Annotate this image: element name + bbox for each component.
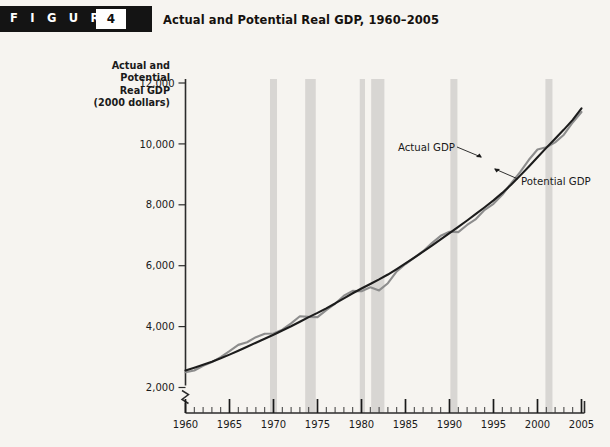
recession-band [360, 79, 365, 413]
recession-band [270, 79, 277, 413]
y-axis-title-line: Actual and [112, 60, 170, 71]
figure-page: F I G U R E 4 Actual and Potential Real … [0, 0, 610, 447]
recession-bands [270, 79, 552, 413]
y-tick-label: 6,000 [146, 260, 175, 271]
figure-number: 4 [96, 12, 126, 26]
y-tick-labels: 2,0004,0006,0008,00010,00012,000 [140, 78, 175, 394]
figure-header: F I G U R E 4 Actual and Potential Real … [0, 6, 610, 32]
chart-container: 2,0004,0006,0008,00010,00012,000 1960196… [0, 32, 610, 447]
gdp-line-chart: 2,0004,0006,0008,00010,00012,000 1960196… [0, 32, 610, 447]
y-axis-title-line: Real GDP [120, 85, 170, 96]
x-tick-label: 2000 [525, 419, 550, 430]
x-tick-label: 1985 [393, 419, 418, 430]
y-tick-label: 8,000 [146, 199, 175, 210]
y-axis-title: Actual andPotentialReal GDP(2000 dollars… [93, 60, 170, 108]
figure-number-box: 4 [96, 9, 126, 29]
x-tick-label: 1960 [173, 419, 198, 430]
x-tick-label: 1990 [437, 419, 462, 430]
y-tick-label: 2,000 [146, 382, 175, 393]
x-tick-label: 1995 [481, 419, 506, 430]
x-tick-label: 1980 [349, 419, 374, 430]
y-axis-title-line: Potential [120, 72, 170, 83]
figure-title: Actual and Potential Real GDP, 1960–2005 [163, 13, 439, 27]
recession-band [371, 79, 384, 413]
series-annotations: Actual GDPPotential GDP [398, 142, 591, 187]
recession-band [545, 79, 552, 413]
y-tick-label: 10,000 [140, 139, 175, 150]
x-tick-label: 2005 [569, 419, 594, 430]
recession-band [305, 79, 316, 413]
annotation-leader-actual [457, 147, 481, 157]
x-tick-label: 1975 [305, 419, 330, 430]
x-tick-label: 1970 [261, 419, 286, 430]
recession-band [450, 79, 457, 413]
annotation-actual-gdp: Actual GDP [398, 142, 455, 153]
annotation-potential-gdp: Potential GDP [521, 176, 591, 187]
y-axis-title-line: (2000 dollars) [93, 97, 170, 108]
y-tick-label: 4,000 [146, 321, 175, 332]
x-tick-label: 1965 [217, 419, 242, 430]
x-tick-labels: 1960196519701975198019851990199520002005 [173, 419, 594, 430]
